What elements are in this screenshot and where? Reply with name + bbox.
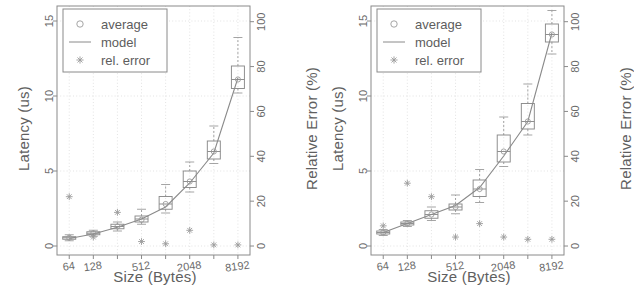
svg-text:average: average [415, 17, 462, 32]
svg-text:0: 0 [43, 243, 55, 249]
svg-text:10: 10 [43, 90, 55, 102]
svg-text:10: 10 [357, 90, 369, 102]
left-chart-canvas: 0510150204060801006412851220488192averag… [0, 0, 314, 292]
svg-text:average: average [101, 17, 148, 32]
left-chart-y-axis-label: Latency (us) [15, 59, 32, 199]
svg-text:model: model [101, 35, 137, 50]
svg-text:0: 0 [569, 243, 581, 249]
svg-text:20: 20 [255, 195, 267, 207]
left-chart-x-axis-label: Size (Bytes) [57, 268, 253, 285]
svg-text:0: 0 [255, 243, 267, 249]
svg-text:rel. error: rel. error [415, 53, 465, 68]
svg-text:80: 80 [255, 60, 267, 72]
svg-text:15: 15 [357, 15, 369, 27]
svg-text:60: 60 [255, 105, 267, 117]
chart-panel-left: 0510150204060801006412851220488192averag… [0, 0, 314, 292]
svg-text:5: 5 [357, 168, 369, 174]
right-chart-y-axis-label: Latency (us) [329, 59, 346, 199]
svg-text:5: 5 [43, 168, 55, 174]
svg-text:100: 100 [255, 13, 267, 31]
right-chart-x-axis-label: Size (Bytes) [371, 268, 567, 285]
svg-text:model: model [415, 35, 451, 50]
svg-text:15: 15 [43, 15, 55, 27]
svg-text:rel. error: rel. error [101, 53, 151, 68]
svg-text:60: 60 [569, 105, 581, 117]
svg-text:80: 80 [569, 60, 581, 72]
svg-text:0: 0 [357, 243, 369, 249]
svg-text:20: 20 [569, 195, 581, 207]
svg-text:40: 40 [569, 150, 581, 162]
right-chart-canvas: 0510150204060801006412851220488192averag… [314, 0, 628, 292]
svg-text:100: 100 [569, 13, 581, 31]
svg-text:40: 40 [255, 150, 267, 162]
right-chart-y2-axis-label: Relative Error (%) [617, 44, 634, 214]
chart-panel-right: 0510150204060801006412851220488192averag… [314, 0, 628, 292]
